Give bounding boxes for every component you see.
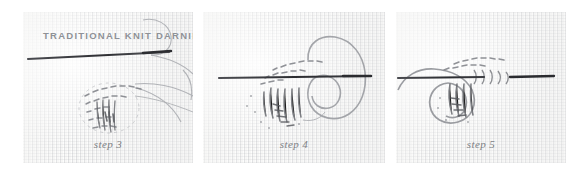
panel-step-3[interactable]: TRADITIONAL KNIT DARNING step 3	[23, 12, 193, 163]
overlay-title-traditional-knit-darning: TRADITIONAL KNIT DARNING	[43, 30, 193, 41]
panel-step-4[interactable]: step 4	[203, 12, 385, 163]
darn-patch	[246, 61, 325, 129]
knit-darning-tutorial-strip: TRADITIONAL KNIT DARNING step 3	[0, 0, 586, 185]
caption-step-4: step 4	[203, 138, 385, 150]
panel-step-5[interactable]: step 5	[396, 12, 566, 163]
darning-needle	[28, 51, 171, 59]
caption-step-3: step 3	[23, 138, 193, 150]
darning-needle	[219, 76, 371, 78]
caption-step-5: step 5	[396, 138, 566, 150]
darn-patch	[79, 83, 193, 133]
darning-needle	[398, 76, 554, 78]
